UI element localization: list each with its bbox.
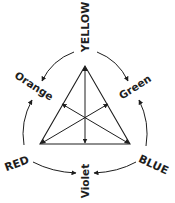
arrow-yellow-to-orange	[42, 52, 74, 81]
arrow-red-to-orange	[23, 100, 32, 145]
label-violet: Violet	[79, 164, 91, 199]
arrow-yellow-to-green	[97, 52, 128, 81]
arrow-red-to-violet	[33, 162, 76, 173]
label-red: RED	[3, 153, 31, 174]
color-mixing-diagram: YELLOW Orange Green RED BLUE Violet	[0, 0, 175, 203]
label-orange: Orange	[13, 69, 56, 103]
diagram-canvas: YELLOW Orange Green RED BLUE Violet	[0, 0, 175, 203]
triangle-medians	[42, 68, 128, 143]
arrow-blue-to-violet	[94, 162, 136, 173]
arrow-blue-to-green	[139, 100, 147, 146]
label-blue: BLUE	[136, 152, 170, 177]
label-green: Green	[117, 72, 153, 101]
label-yellow: YELLOW	[79, 2, 92, 54]
